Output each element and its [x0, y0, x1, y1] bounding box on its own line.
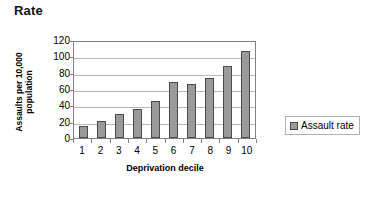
- x-axis-tick: [201, 139, 202, 143]
- bar: [97, 121, 106, 138]
- x-axis-tick-labels: 12345678910: [73, 145, 256, 159]
- y-axis-title: Assaults per 10,000 population: [14, 40, 34, 144]
- bar: [115, 114, 124, 139]
- bar-slot: [147, 42, 165, 138]
- x-axis-tick: [219, 139, 220, 143]
- x-axis-tick-label: 8: [201, 145, 219, 159]
- bar-slot: [182, 42, 200, 138]
- x-axis-tick: [91, 139, 92, 143]
- x-axis-title: Deprivation decile: [40, 163, 290, 173]
- bar: [205, 78, 214, 138]
- bar-slot: [200, 42, 218, 138]
- x-axis-tick: [146, 139, 147, 143]
- bar-slot: [75, 42, 93, 138]
- page-title: Rate: [14, 3, 43, 18]
- bar: [79, 126, 88, 138]
- bar-slot: [165, 42, 183, 138]
- bar-slot: [218, 42, 236, 138]
- x-axis-tick-label: 2: [91, 145, 109, 159]
- y-axis-tick-label: 100: [53, 52, 70, 62]
- x-axis-tick-label: 10: [238, 145, 256, 159]
- bar-chart-figure: Assaults per 10,000 population 020406080…: [0, 30, 388, 200]
- x-axis-tick: [128, 139, 129, 143]
- x-axis-tick-label: 9: [219, 145, 237, 159]
- bar: [169, 82, 178, 138]
- bar-slot: [236, 42, 254, 138]
- legend-label: Assault rate: [301, 120, 354, 131]
- bar: [241, 51, 250, 138]
- bar-slot: [111, 42, 129, 138]
- chart-legend: Assault rate: [285, 116, 360, 135]
- y-axis-tick-label: 120: [53, 36, 70, 46]
- x-axis-tick-label: 6: [164, 145, 182, 159]
- x-axis-tick-label: 1: [73, 145, 91, 159]
- bar-slot: [93, 42, 111, 138]
- bar: [151, 101, 160, 138]
- x-axis-tick: [238, 139, 239, 143]
- plot-area: [73, 41, 256, 139]
- x-axis-tick-label: 3: [110, 145, 128, 159]
- x-axis-tick: [256, 139, 257, 143]
- legend-swatch-icon: [290, 122, 298, 130]
- x-axis-tick-marks: [73, 139, 256, 143]
- x-axis-tick: [165, 139, 166, 143]
- x-axis-tick-label: 7: [183, 145, 201, 159]
- bar: [223, 66, 232, 138]
- x-axis-tick: [73, 139, 74, 143]
- x-axis-tick: [110, 139, 111, 143]
- bar: [133, 109, 142, 138]
- bars-container: [74, 42, 255, 138]
- bar-slot: [129, 42, 147, 138]
- x-axis-tick-label: 5: [146, 145, 164, 159]
- x-axis-tick-label: 4: [128, 145, 146, 159]
- bar: [187, 84, 196, 138]
- y-axis-tick-labels: 020406080100120: [36, 41, 70, 139]
- x-axis-tick: [183, 139, 184, 143]
